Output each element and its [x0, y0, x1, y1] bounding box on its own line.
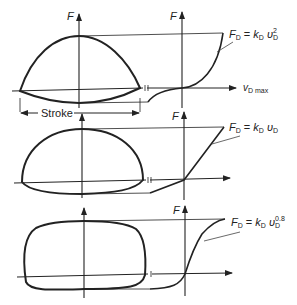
characteristic-curve-quadratic — [148, 33, 223, 102]
velocity-axis-3 — [152, 273, 232, 274]
characteristic-curve-degressive — [150, 219, 225, 289]
equation-quadratic: FD = kD υD2 — [229, 27, 277, 41]
characteristic-curve-linear — [150, 127, 224, 193]
panel-1 — [12, 12, 236, 113]
force-label-left-1: F — [67, 11, 74, 22]
damper-diagram — [0, 0, 297, 305]
equation-degressive: FD = kD υD0.8 — [231, 215, 285, 229]
work-loop-1 — [20, 36, 140, 103]
force-label-right-3: F — [173, 205, 180, 216]
velocity-axis-2 — [150, 178, 230, 180]
work-loop-3 — [24, 221, 145, 290]
stroke-label: Stroke — [40, 108, 74, 119]
force-label-right-1: F — [170, 11, 177, 22]
force-label-right-2: F — [172, 111, 179, 122]
velocity-max-label: vD max — [243, 83, 268, 94]
panel-2 — [14, 112, 240, 200]
equation-linear: FD = kD υD — [229, 122, 278, 134]
panel-3 — [17, 206, 240, 298]
